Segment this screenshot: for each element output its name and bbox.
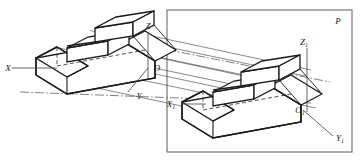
origin-label-o: O — [154, 63, 161, 73]
axis-label-z1-sub: 1 — [305, 42, 308, 48]
diagram-canvas: X Z O Y P X1 Z1 O1 Y1 — [0, 0, 361, 165]
origin-label-o1-sub: 1 — [302, 110, 305, 116]
axis-label-x: X — [4, 63, 11, 73]
axis-label-y1-sub: 1 — [341, 138, 344, 144]
axis-label-x1-sub: 1 — [172, 104, 175, 110]
plane-label-p: P — [334, 16, 341, 26]
projection-diagram: X Z O Y P X1 Z1 O1 Y1 — [0, 0, 361, 165]
